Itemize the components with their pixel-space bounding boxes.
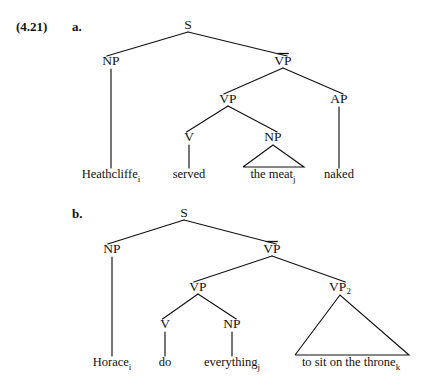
example-number: (4.21) (16, 19, 47, 34)
node-s: S (184, 17, 192, 32)
node-vp-bar: VP (274, 53, 291, 68)
leaf-horace: Horacei (93, 355, 132, 372)
node-vp: VP (219, 91, 236, 106)
tree-a: (4.21)a.SNPVPVPAPVNPHeathcliffeiservedth… (16, 17, 355, 184)
leaf-naked: naked (324, 167, 355, 181)
item-letter-a: a. (72, 19, 82, 34)
node-s: S (180, 205, 188, 220)
item-letter-b: b. (72, 206, 82, 221)
leaf-served: served (173, 167, 206, 181)
node-vp-2: VP2 (329, 279, 351, 296)
leaf-the-meat: the meatj (250, 167, 295, 184)
constituent-triangle (295, 295, 409, 355)
node-np: NP (223, 316, 240, 331)
constituent-triangle (243, 145, 304, 167)
node-np: NP (103, 241, 120, 256)
tree-canvas: (4.21)a.SNPVPVPAPVNPHeathcliffeiservedth… (0, 0, 432, 390)
leaf-everything: everythingj (204, 355, 260, 372)
node-vp-bar: VP (263, 241, 280, 256)
node-v: V (160, 316, 170, 331)
node-v: V (184, 129, 194, 144)
leaf-heathcliffe: Heathcliffei (82, 167, 141, 184)
tree-branch (184, 220, 276, 244)
leaf-to-sit-on-the-throne: to sit on the thronek (302, 355, 401, 372)
syntax-tree-figure: (4.21)a.SNPVPVPAPVNPHeathcliffeiservedth… (0, 0, 432, 390)
node-vp: VP (189, 279, 206, 294)
tree-b: b.SNPVPVPVP2VNPHoraceidoeverythingjto si… (72, 205, 409, 372)
leaf-do: do (159, 355, 172, 369)
node-np: NP (264, 129, 281, 144)
node-np: NP (102, 53, 119, 68)
tree-branch (188, 32, 287, 56)
node-ap: AP (330, 91, 347, 106)
